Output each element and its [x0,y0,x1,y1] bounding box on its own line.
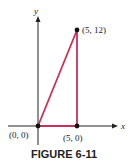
label-origin: (0, 0) [9,130,29,140]
y-axis-arrow-icon [36,16,41,22]
triangle [38,30,77,126]
label-5-12: (5, 12) [82,25,106,35]
x-axis-arrow-icon [112,124,118,129]
triangle-diagram: x y (0, 0) (5, 0) (5, 12) [0,0,128,168]
point-5-12 [75,28,80,33]
label-5-0: (5, 0) [63,133,83,143]
point-5-0 [75,124,80,129]
y-axis-label: y [33,6,38,16]
figure-caption: FIGURE 6-11 [0,148,128,160]
x-axis-label: x [120,121,125,131]
point-origin [36,124,41,129]
